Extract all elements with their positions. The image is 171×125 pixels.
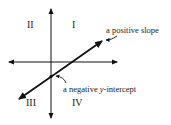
negative-y-intercept-label: a negative y-intercept	[63, 84, 137, 94]
coordinate-plane-diagram: II I III IV a positive slope a negative …	[0, 0, 171, 125]
positive-slope-line-lower	[19, 74, 55, 99]
y-intercept-point	[49, 75, 52, 78]
slope-pointer-arrow	[106, 36, 117, 40]
intercept-pointer-arrow	[56, 76, 66, 83]
quadrant-label-I: I	[72, 19, 75, 30]
quadrant-label-II: II	[27, 19, 34, 30]
positive-slope-line	[55, 41, 102, 74]
quadrant-label-III: III	[26, 97, 36, 108]
intercept-suffix: -intercept	[104, 84, 137, 94]
quadrant-label-IV: IV	[72, 97, 83, 108]
intercept-prefix: a negative	[63, 84, 100, 94]
positive-slope-label: a positive slope	[106, 25, 159, 35]
